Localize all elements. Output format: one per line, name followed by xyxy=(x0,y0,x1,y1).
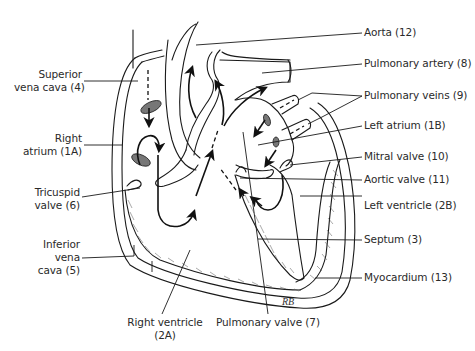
septum-wall xyxy=(235,165,304,280)
blood-flow-arrows xyxy=(138,68,283,227)
label-left-atrium: Left atrium (1B) xyxy=(364,119,446,132)
superior-valve-icon xyxy=(139,98,163,116)
pulmonary-veins-shape xyxy=(272,93,322,140)
label-right-atrium: Right atrium (1A) xyxy=(14,132,82,158)
label-left-ventricle: Left ventricle (2B) xyxy=(364,199,456,212)
label-line: cava (5) xyxy=(14,264,80,277)
label-myocardium: Myocardium (13) xyxy=(364,271,452,284)
label-inferior-vena-cava: Inferior vena cava (5) xyxy=(14,238,80,277)
label-septum: Septum (3) xyxy=(364,233,422,246)
superior-vena-cava-shape xyxy=(133,30,164,68)
muscle-hatching xyxy=(128,170,338,291)
label-line: Right xyxy=(14,132,82,145)
label-line: vena xyxy=(14,251,80,264)
label-line: Superior xyxy=(14,68,82,81)
label-line: Right ventricle xyxy=(120,316,210,329)
pulmonary-vein-valve xyxy=(262,113,272,126)
label-superior-vena-cava: Superior vena cava (4) xyxy=(14,68,82,94)
label-line: Inferior xyxy=(14,238,80,251)
artist-signature: RB xyxy=(281,296,294,307)
label-pulmonary-valve: Pulmonary valve (7) xyxy=(216,316,320,329)
label-mitral-valve: Mitral valve (10) xyxy=(364,150,449,163)
label-right-ventricle: Right ventricle (2A) xyxy=(120,316,210,342)
left-atrium-wall xyxy=(236,98,294,166)
label-line: (2A) xyxy=(120,329,210,342)
aorta-shape xyxy=(165,22,200,170)
tricuspid-valve-disc xyxy=(130,151,152,169)
label-pulmonary-veins: Pulmonary veins (9) xyxy=(364,89,467,102)
myocardium-outline xyxy=(112,58,355,308)
label-pulmonary-artery: Pulmonary artery (8) xyxy=(364,57,471,70)
label-aortic-valve: Aortic valve (11) xyxy=(364,173,449,186)
label-aorta: Aorta (12) xyxy=(364,26,416,39)
heart-diagram: RB Superior vena cava (4) Right atrium (… xyxy=(0,0,475,351)
label-line: Tricuspid xyxy=(14,186,80,199)
label-line: vena cava (4) xyxy=(14,81,82,94)
label-line: atrium (1A) xyxy=(14,145,82,158)
label-tricuspid-valve: Tricuspid valve (6) xyxy=(14,186,80,212)
label-line: valve (6) xyxy=(14,199,80,212)
